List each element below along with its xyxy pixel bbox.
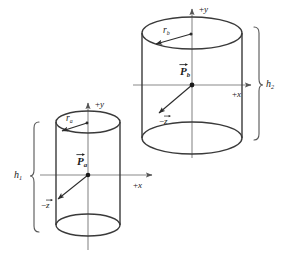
- cylinder-a-z-vector-wrap: z: [46, 201, 50, 210]
- cylinder-b-x-axis-label: +x: [232, 90, 241, 99]
- cylinder-b-position-vector-label: Pb: [180, 66, 190, 77]
- cylinder-a-radius-label: ra: [66, 114, 73, 124]
- cylinder-b-y-axis-label: +y: [199, 5, 208, 14]
- cylinder-a-y-letter: y: [100, 99, 104, 109]
- cylinder-b-y-letter: y: [204, 4, 208, 14]
- cylinder-a-radius-arrow: [62, 123, 87, 131]
- cylinder-a-z-axis-label: −z: [41, 201, 50, 210]
- cylinder-a-vector-letter: P: [77, 155, 84, 167]
- cylinder-a-group: [30, 103, 152, 250]
- diagram-canvas: [0, 0, 286, 266]
- cylinder-a-z-axis-arrow: [58, 175, 88, 199]
- cylinder-a-radius-subscript: a: [70, 118, 73, 124]
- cylinder-a-x-axis-label: +x: [133, 181, 142, 190]
- cylinder-b-z-letter: z: [164, 116, 168, 126]
- cylinder-b-vector-subscript: b: [187, 71, 190, 78]
- cylinder-b-x-letter: x: [237, 89, 241, 99]
- cylinder-a-height-label: h1: [14, 170, 22, 180]
- cylinder-b-height-brace: [254, 27, 263, 140]
- cylinder-a-origin-dot: [86, 173, 91, 178]
- cylinder-diagram-figure: +y +x −z rb Pb h2 +y +x −z ra Pa h1: [0, 0, 286, 266]
- cylinder-b-z-axis-arrow: [159, 85, 192, 113]
- cylinder-b-vector-wrap: P: [180, 66, 187, 77]
- cylinder-b-height-subscript: 2: [271, 83, 274, 90]
- cylinder-b-z-vector-wrap: z: [164, 117, 168, 126]
- cylinder-a-top-center-dot: [86, 122, 89, 125]
- cylinder-a-height-brace: [30, 122, 39, 232]
- cylinder-b-z-axis-label: −z: [159, 117, 168, 126]
- cylinder-a-y-axis-label: +y: [95, 100, 104, 109]
- cylinder-a-z-letter: z: [46, 200, 50, 210]
- cylinder-b-origin-dot: [190, 83, 195, 88]
- cylinder-b-vector-letter: P: [180, 65, 187, 77]
- cylinder-b-radius-subscript: b: [167, 30, 170, 36]
- cylinder-b-radius-label: rb: [163, 26, 170, 36]
- cylinder-b-height-label: h2: [266, 79, 274, 89]
- cylinder-a-vector-wrap: P: [77, 156, 84, 167]
- cylinder-a-x-letter: x: [138, 180, 142, 190]
- cylinder-b-group: [133, 9, 263, 158]
- cylinder-a-vector-subscript: a: [84, 161, 87, 168]
- cylinder-a-position-vector-label: Pa: [77, 156, 87, 167]
- cylinder-b-top-center-dot: [190, 33, 193, 36]
- cylinder-a-height-subscript: 1: [19, 174, 22, 181]
- cylinder-b-radius-arrow: [156, 34, 191, 44]
